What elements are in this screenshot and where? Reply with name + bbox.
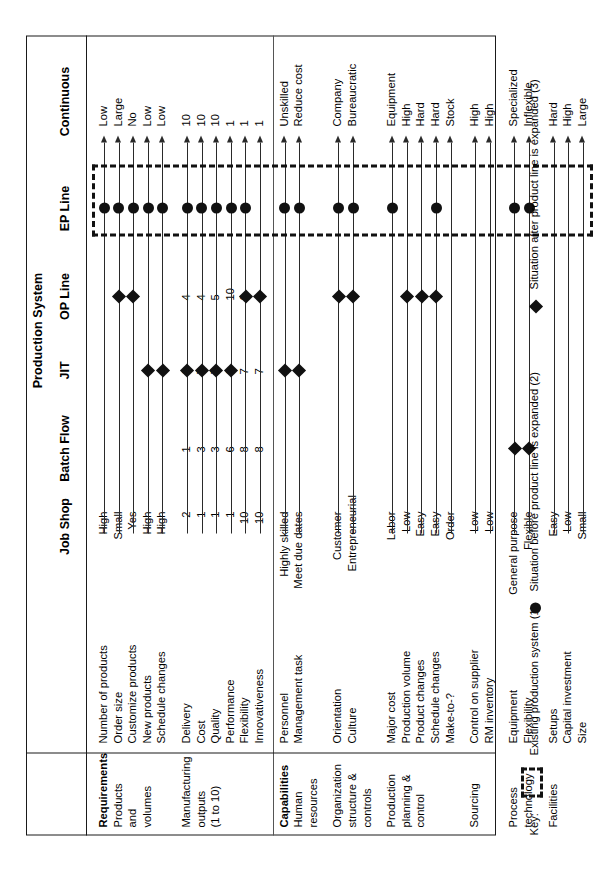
row-value-right: Unskilled <box>278 81 290 126</box>
row-value-right: Hard <box>429 102 441 126</box>
trend-arrow-head <box>227 135 233 142</box>
trend-arrow-head <box>242 135 248 142</box>
trend-arrow-head <box>403 135 409 142</box>
row-value-batch-flow: 1 <box>180 446 192 452</box>
row-value-left: Entrepreneurial <box>346 511 358 571</box>
row-value-left: Yes <box>126 511 138 571</box>
trend-arrow-head <box>335 135 341 142</box>
row-value-batch-flow: 8 <box>253 446 265 452</box>
row-value-batch-flow: 3 <box>209 446 221 452</box>
section-subtitle-line: Process <box>507 787 519 827</box>
row-value-right: Company <box>331 78 343 126</box>
stub-divider <box>26 752 496 753</box>
row-label: Quality <box>209 708 221 743</box>
row-value-left: Small <box>576 511 588 571</box>
section-subtitle-line: Production <box>385 774 397 828</box>
section-subtitle-line: Facilities <box>547 783 559 827</box>
row-value-right: Bureaucratic <box>346 63 358 126</box>
row-label: Equipment <box>507 690 519 744</box>
row-value-left: High <box>97 511 109 571</box>
row-label: RM inventory <box>483 677 495 743</box>
row-value-left: Easy <box>547 511 559 571</box>
row-label: Size <box>576 721 588 743</box>
row-value-right: 10 <box>209 114 221 126</box>
trend-arrow-head <box>511 135 517 142</box>
trend-arrow-head <box>296 135 302 142</box>
row-value-left: Low <box>468 511 480 571</box>
row-value-op-line: 10 <box>224 288 236 300</box>
figure-stage: Production SystemJob ShopBatch FlowJITOP… <box>0 0 616 871</box>
row-value-right: High <box>561 103 573 126</box>
row-label: Major cost <box>385 691 397 743</box>
section-subtitle-line: Products <box>112 783 124 827</box>
row-value-right: Equipment <box>385 73 397 127</box>
column-header-continuous: Continuous <box>58 45 72 157</box>
row-label: Setups <box>547 708 559 743</box>
section-subtitle-line: and <box>126 808 138 827</box>
row-value-right: Large <box>112 97 124 126</box>
row-label: Flexibility <box>238 697 250 743</box>
trend-arrow-head <box>579 135 585 142</box>
row-value-jit: 7 <box>253 368 265 374</box>
section-subtitle-line: control <box>414 793 426 827</box>
row-value-right: Low <box>141 105 153 126</box>
row-value-left: 10 <box>253 511 265 571</box>
row-value-right: Specialized <box>507 69 519 126</box>
row-value-right: High <box>483 103 495 126</box>
row-value-right: Hard <box>414 102 426 126</box>
section-title: Capabilities <box>278 764 290 827</box>
row-value-left: Easy <box>414 511 426 571</box>
group-header: Production System <box>31 200 45 460</box>
trend-arrow-head <box>257 135 263 142</box>
row-value-right: Reduce cost <box>292 64 304 126</box>
row-value-jit: 7 <box>238 368 250 374</box>
trend-arrow-head <box>213 135 219 142</box>
key-label: Key: <box>528 813 540 835</box>
trend-arrow-head <box>159 135 165 142</box>
row-label: Schedule changes <box>429 651 441 743</box>
trend-arrow-head <box>418 135 424 142</box>
row-value-right: High <box>468 103 480 126</box>
row-label: Culture <box>346 707 358 743</box>
trend-arrow-head <box>565 135 571 142</box>
section-subtitle-line: Organization <box>331 764 343 827</box>
trend-arrow-head <box>389 135 395 142</box>
row-value-left: General purpose <box>507 511 519 603</box>
row-label: Innovativeness <box>253 668 265 743</box>
row-value-left: 2 <box>180 511 192 571</box>
row-value-left: Meet due dates <box>292 511 304 603</box>
rotated-canvas: Production SystemJob ShopBatch FlowJITOP… <box>0 0 616 871</box>
section-subtitle-line: Manufacturing <box>180 756 192 827</box>
row-value-right: 1 <box>253 120 265 126</box>
row-value-right: 1 <box>238 120 250 126</box>
row-label: Cost <box>195 720 207 743</box>
row-label: Personnel <box>278 693 290 743</box>
row-label: Performance <box>224 679 236 743</box>
row-label: Order size <box>112 691 124 743</box>
marker-diamond-batch-flow <box>508 441 522 455</box>
key-glyph-diamond <box>528 299 542 313</box>
key-item-text: Situation before product line is expande… <box>528 371 540 591</box>
trend-arrow-head <box>144 135 150 142</box>
key-glyph-circle <box>530 602 541 613</box>
trend-arrow-head <box>350 135 356 142</box>
row-label: Make-to-? <box>444 693 456 743</box>
production-system-comparison-figure: Production SystemJob ShopBatch FlowJITOP… <box>0 0 616 871</box>
row-value-right: High <box>400 103 412 126</box>
section-subtitle-line: planning & <box>400 774 412 827</box>
trend-arrow-head <box>550 135 556 142</box>
row-label: Capital investment <box>561 651 573 743</box>
ep-line-highlight-box <box>92 164 593 236</box>
row-label: Orientation <box>331 688 343 743</box>
row-label: Control on supplier <box>468 649 480 743</box>
section-title: Requirements <box>97 752 109 827</box>
row-label: Number of products <box>97 645 109 743</box>
row-value-right: 10 <box>180 114 192 126</box>
section-subtitle-line: (1 to 10) <box>209 785 221 827</box>
row-label: Schedule changes <box>155 651 167 743</box>
row-value-left: Low <box>561 511 573 571</box>
trend-arrow-head <box>101 135 107 142</box>
section-divider <box>273 35 274 835</box>
trend-arrow-head <box>198 135 204 142</box>
row-label: Delivery <box>180 703 192 743</box>
